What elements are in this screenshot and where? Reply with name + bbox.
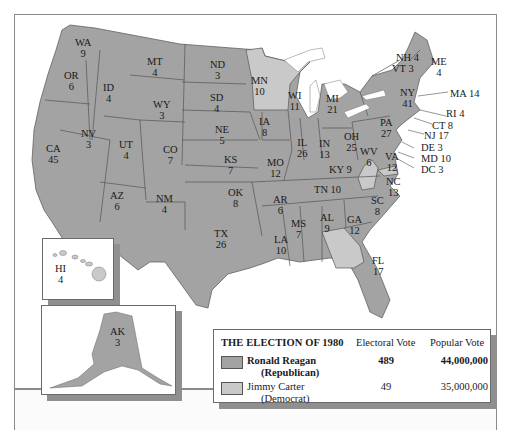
state-label-mn: MN10 [251,75,268,97]
state-label-ca: CA45 [46,143,61,165]
legend-electoral-carter: 49 [373,381,399,392]
state-label-ks: KS7 [224,154,237,176]
state-label-nj: NJ 17 [424,130,449,141]
state-label-ar: AR6 [273,194,288,216]
state-label-de: DE 3 [421,142,443,153]
state-label-wa: WA9 [75,37,91,59]
state-label-ia: IA8 [259,116,270,138]
state-label-nm: NM4 [156,193,173,215]
hawaii-inset [42,238,114,300]
state-label-mi: MI21 [326,93,339,115]
state-label-ri: RI 4 [446,108,464,119]
state-label-sd: SD4 [210,92,223,114]
state-label-vt: VT 3 [392,63,414,74]
state-label-ut: UT4 [119,139,133,161]
state-abbr: HI [55,263,66,274]
legend-swatch-democrat [221,382,243,395]
state-ev: 3 [115,337,120,348]
state-label-ak: AK 3 [110,326,125,348]
legend-header-electoral: Electoral Vote [356,337,415,348]
state-label-dc: DC 3 [421,164,443,175]
state-label-wv: WV6 [360,146,378,168]
state-label-id: ID4 [103,82,114,104]
state-label-co: CO7 [163,144,178,166]
state-label-il: IL26 [297,137,308,159]
state-label-mo: MO12 [267,157,284,179]
candidate-name: Jimmy Carter [247,381,304,392]
state-label-in: IN13 [319,138,330,160]
candidate-name: Ronald Reagan [247,355,316,366]
state-label-va: VA12 [385,151,399,173]
state-label-hi: HI 4 [55,263,66,285]
state-label-oh: OH25 [344,131,359,153]
state-label-nd: ND3 [210,59,225,81]
state-label-ne: NE5 [215,124,229,146]
legend-popular-reagan: 44,000,000 [430,355,488,366]
state-label-tn: TN 10 [314,184,341,195]
legend-swatch-republican [221,356,243,369]
state-label-md: MD 10 [421,153,451,164]
legend-candidate-reagan: Ronald Reagan (Republican) [247,355,319,379]
state-label-nc: NC13 [386,176,401,198]
alaska-shape [42,306,175,394]
state-label-sc: SC8 [371,195,384,217]
legend-popular-carter: 35,000,000 [430,381,488,392]
state-label-wi: WI11 [288,90,301,112]
state-label-tx: TX26 [214,228,228,250]
state-label-wy: WY3 [153,99,171,121]
legend-header-popular: Popular Vote [430,337,484,348]
legend-box: THE ELECTION OF 1980 Electoral Vote Popu… [213,329,491,403]
state-label-ny: NY41 [400,87,415,109]
candidate-party: (Republican) [247,367,319,379]
state-ev: 4 [58,274,63,285]
state-label-ma: MA 14 [450,88,479,99]
state-label-or: OR6 [64,70,79,92]
candidate-party: (Democrat) [247,393,309,405]
hawaii-islands [43,239,113,299]
state-label-pa: PA27 [380,117,392,139]
state-label-ok: OK8 [228,187,243,209]
legend-electoral-reagan: 489 [373,355,399,366]
state-label-ky: KY 9 [329,164,352,175]
state-label-az: AZ6 [110,190,124,212]
state-label-nv: NV3 [81,128,96,150]
legend-title: THE ELECTION OF 1980 [221,337,344,348]
legend-candidate-carter: Jimmy Carter (Democrat) [247,381,309,405]
state-label-al: AL9 [320,212,334,234]
state-label-mt: MT4 [147,56,163,78]
state-label-fl: FL17 [372,255,384,277]
state-label-la: LA10 [274,234,288,256]
alaska-inset [41,305,176,395]
state-label-me: ME4 [431,56,447,78]
state-label-ga: GA12 [347,214,362,236]
state-label-nh: NH 4 [396,52,419,63]
state-label-ms: MS7 [291,218,306,240]
state-abbr: AK [110,326,125,337]
